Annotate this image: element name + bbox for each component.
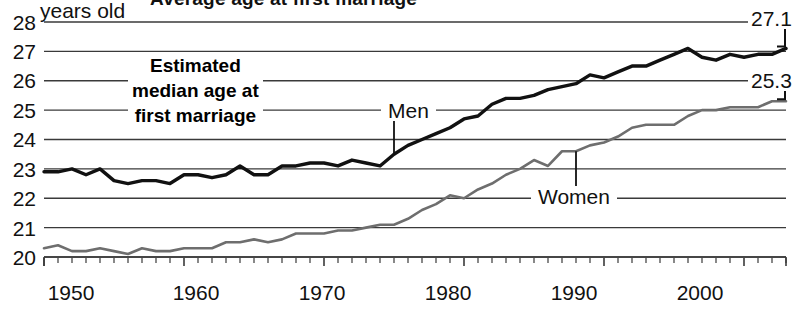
series-label-men: Men bbox=[381, 100, 436, 121]
annotation-line-1: Estimated bbox=[132, 53, 259, 78]
series-label-women: Women bbox=[531, 186, 617, 207]
end-value-label-women: 25.3 bbox=[748, 70, 795, 91]
y-axis-unit-label: years old bbox=[40, 0, 125, 21]
y-tick-label-22: 22 bbox=[0, 188, 36, 209]
y-tick-label-24: 24 bbox=[0, 129, 36, 150]
end-bracket-men bbox=[777, 28, 785, 46]
y-tick-label-26: 26 bbox=[0, 70, 36, 91]
x-tick-label-1950: 1950 bbox=[48, 282, 95, 303]
x-tick-label-1970: 1970 bbox=[299, 282, 346, 303]
y-tick-label-20: 20 bbox=[0, 247, 36, 268]
annotation-line-3: first marriage bbox=[132, 103, 259, 128]
end-value-label-men: 27.1 bbox=[748, 8, 795, 29]
x-tick-label-1990: 1990 bbox=[551, 282, 598, 303]
chart-container: Average age at first marriage years old … bbox=[0, 0, 803, 312]
plot-area bbox=[0, 0, 803, 312]
y-tick-label-21: 21 bbox=[0, 218, 36, 239]
annotation-line-2: median age at bbox=[132, 78, 259, 103]
x-tick-label-2000: 2000 bbox=[677, 282, 724, 303]
y-tick-label-27: 27 bbox=[0, 41, 36, 62]
y-tick-label-28: 28 bbox=[0, 12, 36, 33]
y-tick-label-23: 23 bbox=[0, 159, 36, 180]
x-tick-label-1980: 1980 bbox=[425, 282, 472, 303]
y-tick-label-25: 25 bbox=[0, 100, 36, 121]
chart-annotation: Estimated median age at first marriage bbox=[128, 53, 263, 128]
x-tick-label-1960: 1960 bbox=[173, 282, 220, 303]
